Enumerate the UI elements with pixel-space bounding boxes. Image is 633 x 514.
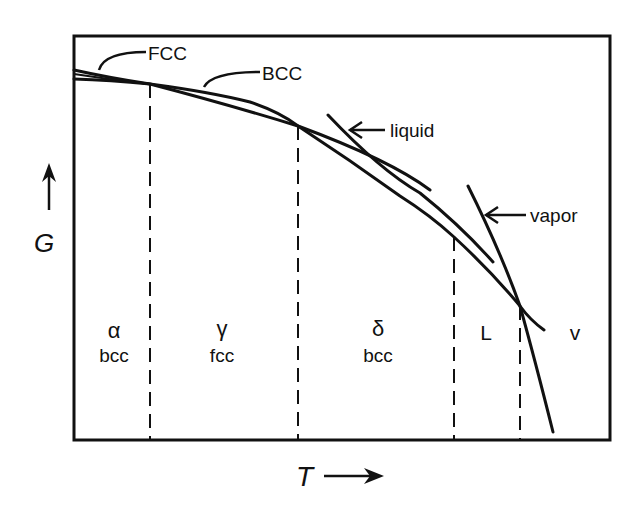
bcc-curve	[74, 79, 544, 330]
curves	[74, 70, 553, 432]
bcc-label: BCC	[262, 63, 302, 84]
region-alpha-symbol: α	[108, 318, 121, 343]
phase-boundaries	[150, 84, 520, 440]
bcc-leader	[204, 72, 260, 87]
y-axis-label: G	[34, 228, 54, 258]
gibbs-energy-diagram: FCC BCC liquid vapor α bcc γ fcc δ bcc L…	[0, 0, 633, 514]
region-gamma-structure: fcc	[210, 345, 234, 366]
fcc-label: FCC	[148, 43, 187, 64]
plot-frame	[74, 36, 610, 440]
region-liquid-symbol: L	[480, 321, 492, 344]
region-delta-symbol: δ	[372, 316, 384, 341]
x-axis-label: T	[296, 461, 315, 492]
region-vapor-symbol: v	[570, 321, 581, 344]
region-delta-structure: bcc	[363, 345, 393, 366]
region-gamma-symbol: γ	[217, 316, 228, 341]
liquid-label: liquid	[390, 120, 434, 141]
label-leaders	[99, 52, 526, 215]
vapor-label: vapor	[530, 205, 578, 226]
fcc-leader	[99, 52, 146, 70]
region-alpha-structure: bcc	[99, 345, 129, 366]
